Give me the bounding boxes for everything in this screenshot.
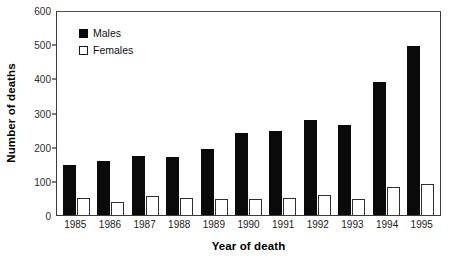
plot-area: Males Females: [56, 11, 441, 216]
x-tick-label: 1990: [231, 219, 266, 235]
y-axis-ticks: 0100200300400500600: [22, 0, 56, 226]
bar-females-1993: [352, 199, 365, 215]
bar-males-1992: [304, 120, 317, 215]
x-axis-title: Year of death: [56, 240, 441, 252]
y-axis-title-text: Number of deaths: [5, 63, 17, 162]
y-tick-label: 600: [34, 6, 51, 17]
x-tick-label: 1988: [162, 219, 197, 235]
y-tick-label: 400: [34, 74, 51, 85]
legend-item-males: Males: [79, 27, 133, 39]
bar-group: [369, 12, 403, 215]
bar-females-1986: [111, 202, 124, 215]
bar-females-1994: [387, 187, 400, 215]
bar-males-1985: [63, 165, 76, 215]
bar-females-1991: [283, 198, 296, 215]
x-tick-label: 1987: [127, 219, 162, 235]
x-tick-label: 1991: [266, 219, 301, 235]
bar-males-1991: [269, 131, 282, 215]
bar-males-1987: [132, 156, 145, 215]
y-tick-label: 100: [34, 176, 51, 187]
bar-females-1992: [318, 195, 331, 215]
bar-group: [266, 12, 300, 215]
y-axis-title: Number of deaths: [0, 0, 22, 226]
bar-males-1994: [373, 82, 386, 215]
bar-group: [300, 12, 334, 215]
x-tick-label: 1993: [335, 219, 370, 235]
legend-label-males: Males: [93, 27, 121, 39]
bar-males-1989: [201, 149, 214, 215]
bar-group: [197, 12, 231, 215]
y-tick-label: 200: [34, 142, 51, 153]
x-tick-label: 1995: [404, 219, 439, 235]
bar-males-1993: [338, 125, 351, 215]
x-tick-label: 1994: [370, 219, 405, 235]
bar-group: [335, 12, 369, 215]
legend-swatch-females-icon: [79, 46, 88, 55]
bar-group: [162, 12, 196, 215]
y-tick-label: 0: [45, 211, 51, 222]
bar-males-1988: [166, 157, 179, 215]
x-axis-ticks: 1985198619871988198919901991199219931994…: [56, 219, 441, 235]
y-tick-label: 300: [34, 108, 51, 119]
y-tick-label: 500: [34, 40, 51, 51]
x-tick-label: 1985: [58, 219, 93, 235]
x-tick-label: 1992: [300, 219, 335, 235]
x-tick-label: 1986: [93, 219, 128, 235]
x-tick-label: 1989: [197, 219, 232, 235]
bar-females-1989: [215, 199, 228, 215]
legend-swatch-males-icon: [79, 29, 88, 38]
legend-label-females: Females: [93, 44, 133, 56]
bar-females-1995: [421, 184, 434, 215]
legend: Males Females: [79, 27, 133, 56]
legend-item-females: Females: [79, 44, 133, 56]
bar-males-1995: [407, 46, 420, 215]
bar-chart-figure: Number of deaths 0100200300400500600 Mal…: [0, 0, 456, 266]
bar-males-1986: [97, 161, 110, 215]
bar-females-1987: [146, 196, 159, 215]
bar-females-1985: [77, 198, 90, 215]
bar-males-1990: [235, 133, 248, 215]
bar-females-1990: [249, 199, 262, 215]
bar-group: [231, 12, 265, 215]
bar-females-1988: [180, 198, 193, 215]
bar-group: [404, 12, 438, 215]
